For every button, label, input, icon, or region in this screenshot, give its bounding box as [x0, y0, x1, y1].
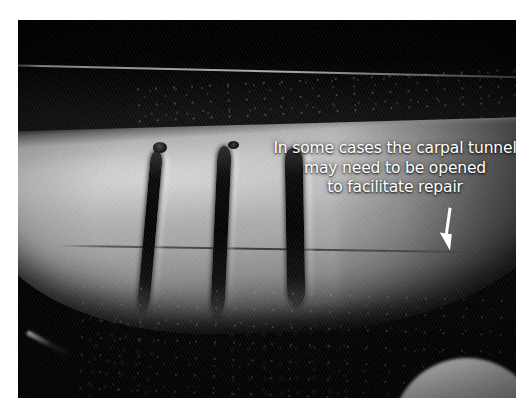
drape-fold-center	[227, 326, 350, 398]
slide-canvas: In some cases the carpal tunnel may need…	[0, 0, 523, 416]
caption-overlay: In some cases the carpal tunnel may need…	[254, 139, 516, 198]
caption-line-1: In some cases the carpal tunnel	[254, 139, 516, 159]
clinical-photograph: In some cases the carpal tunnel may need…	[18, 20, 516, 398]
proximal-nick-secondary	[228, 141, 239, 149]
caption-line-3: to facilitate repair	[254, 178, 516, 198]
drape-fold-left	[84, 316, 162, 398]
proximal-nick	[153, 142, 167, 153]
caption-line-2: may need to be opened	[254, 159, 516, 179]
